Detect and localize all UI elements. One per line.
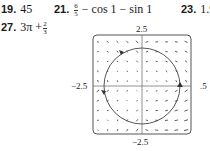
arrow-marker-top	[119, 50, 124, 55]
vector-field-plot	[0, 0, 210, 151]
arrow-marker-right	[177, 82, 183, 87]
